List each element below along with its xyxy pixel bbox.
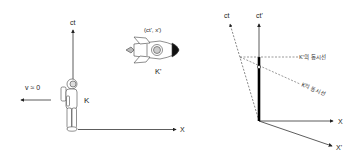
ct-axis-tilted-label: ct xyxy=(224,12,230,19)
astronaut-icon xyxy=(61,79,77,131)
x-axis-label: X xyxy=(180,126,185,133)
k-simultaneity-line xyxy=(240,57,300,84)
ct-axis-tilted xyxy=(230,24,259,121)
rocket-coords-label: (ct', x') xyxy=(144,27,161,33)
frame-k-prime-label: K' xyxy=(155,67,162,76)
k-prime-simultaneity-label: K'의 동시선 xyxy=(299,53,326,61)
x-prime-axis-label: X' xyxy=(336,144,342,151)
velocity-label: v ≈ 0 xyxy=(25,84,40,91)
frame-k-label: K xyxy=(84,96,90,105)
rocket-icon xyxy=(126,37,179,63)
left-diagram: ct X v ≈ 0 K (ct', xyxy=(21,19,185,133)
k-simultaneity-label: K의 동시선 xyxy=(300,81,326,99)
ct-axis-label: ct xyxy=(70,19,76,26)
ct-prime-axis-label: ct' xyxy=(256,12,263,19)
x-axis-right-label: X xyxy=(338,118,343,125)
right-diagram: ct' ct X X' K'의 동시선 K의 동시선 xyxy=(224,12,343,151)
x-prime-axis xyxy=(259,121,332,146)
spacetime-diagram: ct X v ≈ 0 K (ct', xyxy=(0,0,362,162)
